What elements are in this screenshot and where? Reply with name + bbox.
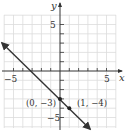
- point-label-1-neg4: (1, −4): [77, 98, 107, 108]
- axes: [2, 3, 122, 130]
- x-tick-label-5: 5: [104, 74, 110, 84]
- coordinate-plane: −5 5 5 −5 x y (0, −3) (1, −4): [0, 0, 126, 133]
- y-tick-label-neg5: −5: [47, 113, 61, 123]
- y-tick-label-5: 5: [50, 20, 56, 30]
- graph-line: [2, 43, 90, 129]
- x-tick-label-neg5: −5: [4, 74, 18, 84]
- point-0-neg3: [58, 97, 62, 101]
- point-label-0-neg3: (0, −3): [26, 98, 56, 108]
- y-axis-label: y: [50, 0, 57, 11]
- x-axis-label: x: [119, 72, 125, 83]
- point-1-neg4: [67, 106, 71, 110]
